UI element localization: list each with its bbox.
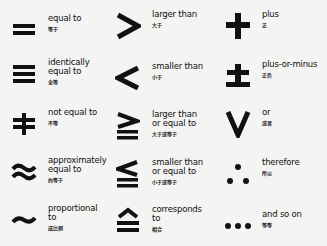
- symbol-not-equal: not equal to不等: [6, 108, 97, 140]
- label-en: not equal to: [48, 108, 97, 117]
- or-icon: [220, 108, 256, 140]
- label-zh: 小于或等于: [152, 178, 203, 187]
- label-zh: 正负: [262, 71, 317, 80]
- label-en: larger than or equal to: [152, 110, 197, 128]
- math-symbols-chart: equal to等于 identically equal to全等 not eq…: [0, 0, 327, 246]
- plus-minus-icon: [220, 60, 256, 92]
- label-en: smaller than or equal to: [152, 158, 203, 176]
- label-en: plus-or-minus: [262, 60, 317, 69]
- symbol-identical: identically equal to全等: [6, 58, 90, 90]
- less-than-icon: [110, 62, 146, 94]
- label-en: or: [262, 108, 272, 117]
- symbol-leq: smaller than or equal to小于或等于: [110, 158, 203, 190]
- corresponds-icon: [110, 205, 146, 237]
- tilde-icon: [6, 204, 42, 236]
- label-zh: 相合: [152, 225, 202, 234]
- label-en: therefore: [262, 158, 299, 167]
- equals-icon: [6, 14, 42, 46]
- symbol-approx: approximately equal to约等于: [6, 156, 106, 188]
- label-zh: 成比例: [48, 224, 97, 233]
- label-en: approximately equal to: [48, 156, 106, 174]
- symbol-plus-minus: plus-or-minus正负: [220, 60, 317, 92]
- therefore-icon: [220, 158, 256, 190]
- label-zh: 所以: [262, 169, 299, 178]
- label-zh: 正: [262, 21, 279, 30]
- not-equal-icon: [6, 108, 42, 140]
- ellipsis-icon: [220, 210, 256, 242]
- symbol-greater: larger than大于: [110, 10, 197, 42]
- less-equal-icon: [110, 158, 146, 190]
- label-en: smaller than: [152, 62, 203, 71]
- label-zh: 全等: [48, 78, 90, 87]
- label-en: corresponds to: [152, 205, 202, 223]
- label-en: proportional to: [48, 204, 97, 222]
- label-zh: 等等: [262, 221, 302, 230]
- approx-icon: [6, 156, 42, 188]
- label-en: identically equal to: [48, 58, 90, 76]
- symbol-geq: larger than or equal to大于或等于: [110, 110, 197, 142]
- greater-equal-icon: [110, 110, 146, 142]
- symbol-etc: and so on等等: [220, 210, 302, 242]
- label-en: plus: [262, 10, 279, 19]
- label-zh: 大于: [152, 21, 197, 30]
- symbol-plus: plus正: [220, 10, 279, 42]
- label-zh: 约等于: [48, 176, 106, 185]
- identical-icon: [6, 58, 42, 90]
- label-zh: 等于: [48, 25, 81, 34]
- label-en: equal to: [48, 14, 81, 23]
- symbol-less: smaller than小于: [110, 62, 203, 94]
- label-en: and so on: [262, 210, 302, 219]
- label-zh: 或者: [262, 119, 272, 128]
- label-zh: 不等: [48, 119, 97, 128]
- symbol-or: or或者: [220, 108, 272, 140]
- label-zh: 小于: [152, 73, 203, 82]
- greater-than-icon: [110, 10, 146, 42]
- symbol-therefore: therefore所以: [220, 158, 299, 190]
- symbol-equal: equal to等于: [6, 14, 81, 46]
- label-zh: 大于或等于: [152, 130, 197, 139]
- plus-icon: [220, 10, 256, 42]
- label-en: larger than: [152, 10, 197, 19]
- symbol-proportional: proportional to成比例: [6, 204, 97, 236]
- symbol-corresponds: corresponds to相合: [110, 205, 202, 237]
